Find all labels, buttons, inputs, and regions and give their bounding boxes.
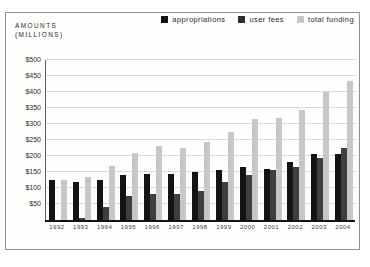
x-tick-label-2003: 2003 — [307, 224, 331, 230]
x-tick-label-1992: 1992 — [45, 224, 69, 230]
bar-group-1992 — [46, 60, 70, 220]
bar-total-funding-1994 — [109, 166, 115, 220]
x-tick-label-1995: 1995 — [117, 224, 141, 230]
x-tick-label-1997: 1997 — [164, 224, 188, 230]
bar-group-1997 — [165, 60, 189, 220]
legend-label: appropriations — [172, 15, 225, 24]
y-tick-label-450: $450 — [10, 72, 41, 79]
bar-group-1993 — [70, 60, 94, 220]
bar-total-funding-1995 — [132, 153, 138, 220]
bar-total-funding-1998 — [204, 142, 210, 220]
legend-item-appropriations: appropriations — [161, 15, 225, 24]
bar-total-funding-1993 — [85, 177, 91, 220]
y-tick-label-250: $250 — [10, 136, 41, 143]
y-axis-title-line2: (MILLIONS) — [15, 30, 64, 39]
x-tick-label-1998: 1998 — [188, 224, 212, 230]
y-tick-label-200: $200 — [10, 152, 41, 159]
x-tick-label-1999: 1999 — [212, 224, 236, 230]
bar-total-funding-1999 — [228, 132, 234, 220]
figure-canvas: AMOUNTS (MILLIONS) appropriationsuser fe… — [0, 0, 370, 267]
x-tick-label-1996: 1996 — [140, 224, 164, 230]
legend-item-user-fees: user fees — [238, 15, 283, 24]
y-tick-label-400: $400 — [10, 88, 41, 95]
y-tick-label-500: $500 — [10, 56, 41, 63]
bar-group-2003 — [308, 60, 332, 220]
bar-appropriations-1993 — [73, 182, 79, 220]
y-tick-label-300: $300 — [10, 120, 41, 127]
legend-label: user fees — [249, 15, 283, 24]
bar-total-funding-2002 — [299, 110, 305, 220]
y-tick-label-100: $100 — [10, 184, 41, 191]
y-tick-label-350: $350 — [10, 104, 41, 111]
x-tick-label-1993: 1993 — [69, 224, 93, 230]
bar-group-2002 — [284, 60, 308, 220]
bar-group-1994 — [94, 60, 118, 220]
legend-swatch-icon — [297, 16, 304, 23]
bar-appropriations-1992 — [49, 180, 55, 220]
bar-group-1998 — [189, 60, 213, 220]
x-axis-tick-labels: 1992199319941995199619971998199920002001… — [45, 224, 355, 230]
x-tick-label-2002: 2002 — [283, 224, 307, 230]
y-axis-title-line1: AMOUNTS — [15, 21, 64, 30]
legend-label: total funding — [308, 15, 354, 24]
bar-group-1995 — [118, 60, 142, 220]
bar-total-funding-2004 — [347, 81, 353, 220]
legend: appropriationsuser feestotal funding — [161, 15, 354, 24]
bar-group-1996 — [141, 60, 165, 220]
bar-group-2001 — [261, 60, 285, 220]
bar-group-1999 — [213, 60, 237, 220]
legend-item-total-funding: total funding — [297, 15, 354, 24]
x-tick-label-1994: 1994 — [93, 224, 117, 230]
bar-total-funding-2001 — [276, 118, 282, 220]
bar-total-funding-2003 — [323, 92, 329, 220]
bar-total-funding-1996 — [156, 146, 162, 220]
x-tick-label-2000: 2000 — [236, 224, 260, 230]
bar-groups — [46, 60, 356, 220]
bar-group-2000 — [237, 60, 261, 220]
legend-swatch-icon — [238, 16, 245, 23]
bar-group-2004 — [332, 60, 356, 220]
bar-total-funding-1992 — [61, 180, 67, 220]
x-axis-line — [45, 220, 355, 222]
plot-area — [45, 60, 356, 220]
x-tick-label-2004: 2004 — [331, 224, 355, 230]
y-axis-title: AMOUNTS (MILLIONS) — [15, 21, 64, 39]
bar-total-funding-2000 — [252, 119, 258, 220]
bar-total-funding-1997 — [180, 148, 186, 220]
y-tick-label-50: $50 — [10, 200, 41, 207]
legend-swatch-icon — [161, 16, 168, 23]
y-tick-label-150: $150 — [10, 168, 41, 175]
x-tick-label-2001: 2001 — [260, 224, 284, 230]
